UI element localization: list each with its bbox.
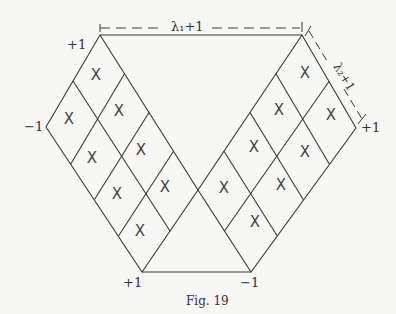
cell-mark: X [300,143,310,161]
figure-caption: Fig. 19 [186,295,229,307]
cell-mark: X [274,101,284,119]
cell-mark: X [91,66,101,84]
cell-mark: X [160,178,170,196]
cell-mark: X [326,106,336,124]
cell-mark: X [87,149,97,167]
top-left-label: +1 [67,38,86,51]
left-label: −1 [24,120,43,133]
cell-mark: X [250,213,260,231]
cell-mark: X [114,102,124,120]
young-diagram-figure: X X X X X X X X X X X X X X X X λ₂+1 [0,0,396,314]
cell-mark: X [136,141,146,159]
top-dimension-label: λ₁+1 [168,20,207,33]
left-strip [46,35,198,272]
cell-mark: X [276,176,286,194]
cell-mark: X [219,179,229,197]
cell-mark: X [249,138,259,156]
bottom-left-label: +1 [123,276,142,289]
cell-mark: X [64,110,74,128]
cell-mark: X [112,185,122,203]
cell-mark: X [135,222,145,240]
cell-mark: X [300,64,310,82]
right-label: +1 [361,121,380,134]
bottom-right-label: −1 [240,276,259,289]
right-dimension-label: λ₂+1 [330,60,358,93]
